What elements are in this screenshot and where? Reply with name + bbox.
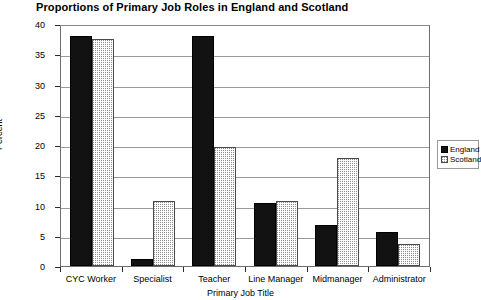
legend-swatch-icon: [441, 146, 448, 153]
bar-scotland[interactable]: [214, 147, 236, 266]
bar-scotland[interactable]: [153, 201, 175, 266]
bar-scotland[interactable]: [276, 201, 298, 266]
y-tick-mark: [55, 86, 60, 87]
bar-england[interactable]: [376, 232, 398, 266]
y-tick-label: 35: [5, 50, 45, 60]
y-tick-mark: [55, 146, 60, 147]
bar-scotland[interactable]: [398, 244, 420, 266]
bars-layer: [61, 26, 429, 266]
bar-group: [122, 26, 183, 266]
legend-label: England: [450, 145, 479, 154]
legend-item-england[interactable]: England: [441, 145, 476, 154]
bar-group: [368, 26, 429, 266]
x-tick-mark: [307, 267, 308, 272]
x-tick-mark: [60, 267, 61, 272]
y-tick-label: 30: [5, 81, 45, 91]
x-tick-mark: [430, 267, 431, 272]
x-tick-label: CYC Worker: [66, 274, 116, 284]
x-axis-title: Primary Job Title: [0, 288, 481, 298]
y-tick-label: 10: [5, 202, 45, 212]
y-tick-label: 5: [5, 232, 45, 242]
bar-group: [306, 26, 367, 266]
plot-area: [60, 25, 430, 267]
y-tick-label: 15: [5, 171, 45, 181]
y-axis-title: Percent: [0, 119, 4, 150]
y-tick-mark: [55, 237, 60, 238]
x-tick-label: Specialist: [133, 274, 172, 284]
bar-england[interactable]: [131, 259, 153, 266]
bar-scotland[interactable]: [337, 158, 359, 266]
y-tick-label: 25: [5, 111, 45, 121]
bar-chart: Proportions of Primary Job Roles in Engl…: [0, 0, 481, 300]
bar-group: [245, 26, 306, 266]
y-tick-mark: [55, 176, 60, 177]
y-tick-label: 40: [5, 20, 45, 30]
y-tick-label: 20: [5, 141, 45, 151]
legend-swatch-icon: [441, 156, 448, 163]
bar-group: [184, 26, 245, 266]
x-tick-label: Midmanager: [312, 274, 362, 284]
x-tick-label: Administrator: [373, 274, 426, 284]
legend-label: Scotland: [450, 155, 481, 164]
x-tick-label: Teacher: [198, 274, 230, 284]
bar-england[interactable]: [315, 225, 337, 266]
y-tick-label: 0: [5, 262, 45, 272]
y-tick-mark: [55, 55, 60, 56]
legend-item-scotland[interactable]: Scotland: [441, 155, 476, 164]
bar-scotland[interactable]: [92, 39, 114, 266]
bar-group: [61, 26, 122, 266]
chart-legend: EnglandScotland: [437, 140, 479, 169]
x-tick-mark: [183, 267, 184, 272]
chart-title: Proportions of Primary Job Roles in Engl…: [36, 1, 348, 13]
bar-england[interactable]: [70, 36, 92, 266]
x-tick-label: Line Manager: [248, 274, 303, 284]
bar-england[interactable]: [254, 203, 276, 266]
y-tick-mark: [55, 25, 60, 26]
bar-england[interactable]: [192, 36, 214, 266]
y-tick-mark: [55, 116, 60, 117]
y-tick-mark: [55, 207, 60, 208]
x-tick-mark: [245, 267, 246, 272]
x-tick-mark: [122, 267, 123, 272]
x-tick-mark: [368, 267, 369, 272]
